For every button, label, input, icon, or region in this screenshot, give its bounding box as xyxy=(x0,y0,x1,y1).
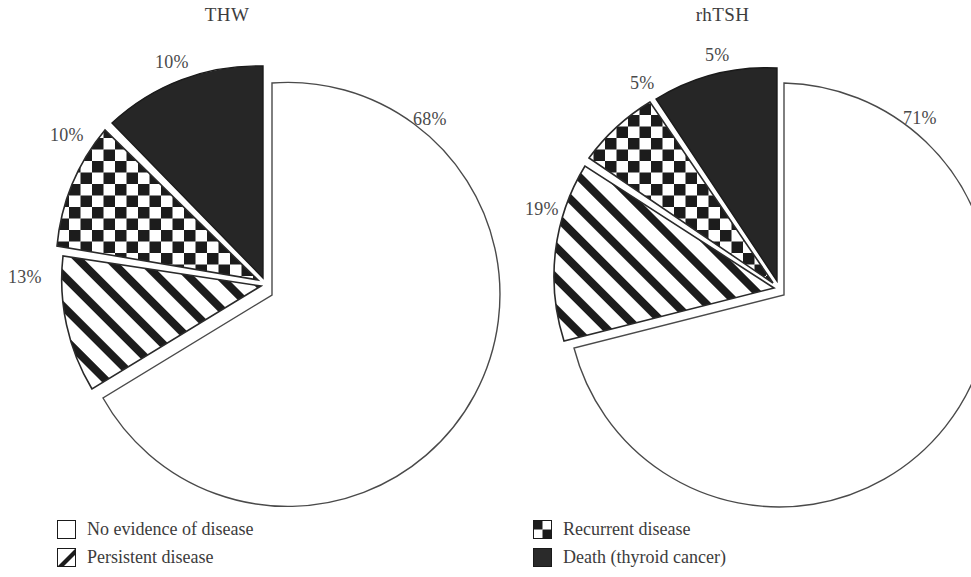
legend-column-left: No evidence of disease Persistent diseas… xyxy=(57,515,253,571)
legend-swatch-solid-white-icon xyxy=(57,520,76,539)
legend-item-death-thyroid-cancer: Death (thyroid cancer) xyxy=(533,543,726,571)
legend-item-no-evidence-of-disease: No evidence of disease xyxy=(57,515,253,543)
legend-item-recurrent-disease: Recurrent disease xyxy=(533,515,726,543)
pie-chart-thw xyxy=(0,0,490,510)
chart-panel-rhtsh: rhTSH xyxy=(490,0,971,510)
legend-label-persistent-disease: Persistent disease xyxy=(87,548,213,566)
pie-label-thw-death: 10% xyxy=(155,52,189,73)
pie-label-rhtsh-no-evidence: 71% xyxy=(903,108,937,129)
legend-label-death-thyroid-cancer: Death (thyroid cancer) xyxy=(563,548,726,566)
pie-label-thw-no-evidence: 68% xyxy=(413,109,447,130)
legend-swatch-checkerboard-icon xyxy=(533,520,552,539)
legend-swatch-solid-black-icon xyxy=(533,548,552,567)
pie-chart-rhtsh xyxy=(490,0,971,510)
legend-label-recurrent-disease: Recurrent disease xyxy=(563,520,690,538)
pie-label-thw-persistent: 13% xyxy=(8,267,42,288)
legend-label-no-evidence-of-disease: No evidence of disease xyxy=(87,520,253,538)
pie-label-rhtsh-recurrent: 5% xyxy=(630,73,654,94)
legend: No evidence of disease Persistent diseas… xyxy=(0,515,971,577)
pie-label-rhtsh-death: 5% xyxy=(705,45,729,66)
legend-column-right: Recurrent disease Death (thyroid cancer) xyxy=(533,515,726,571)
legend-item-persistent-disease: Persistent disease xyxy=(57,543,253,571)
pie-label-rhtsh-persistent: 19% xyxy=(525,199,559,220)
pie-label-thw-recurrent: 10% xyxy=(50,125,84,146)
figure-two-pie-charts: THW 68% 13% xyxy=(0,0,971,577)
chart-panel-thw: THW 68% 13% xyxy=(0,0,490,510)
legend-swatch-diagonal-stripes-icon xyxy=(57,548,76,567)
